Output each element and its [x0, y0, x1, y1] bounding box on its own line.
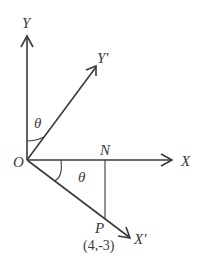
theta-label-x: θ — [78, 169, 86, 185]
point-p-coords: (4,-3) — [83, 238, 115, 254]
y-prime-axis — [27, 66, 96, 160]
x-prime-axis-label: X′ — [133, 231, 147, 247]
rotation-diagram: Y Y′ X X′ θ θ O N P (4,-3) — [0, 0, 204, 269]
angle-arc-x — [54, 160, 61, 181]
point-n-label: N — [99, 142, 111, 158]
x-axis-label: X — [180, 153, 191, 169]
origin-label: O — [13, 154, 24, 170]
point-p-label: P — [94, 220, 104, 236]
y-prime-axis-label: Y′ — [97, 50, 109, 66]
y-axis-label: Y — [22, 15, 32, 31]
theta-label-y: θ — [34, 115, 42, 131]
